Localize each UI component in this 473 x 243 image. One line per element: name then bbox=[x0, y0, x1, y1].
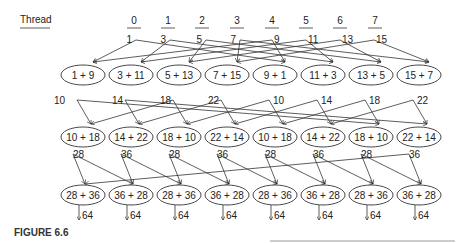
initial-value: 15 bbox=[376, 34, 388, 45]
step2-oval-label: 10 + 18 bbox=[66, 132, 100, 143]
step1-oval-label: 13 + 5 bbox=[357, 70, 386, 81]
thread-label: Thread bbox=[20, 14, 52, 25]
thread-id: 5 bbox=[303, 15, 309, 26]
step1-oval-label: 3 + 11 bbox=[117, 70, 145, 81]
step1-oval-label: 15 + 7 bbox=[405, 70, 434, 81]
initial-value: 9 bbox=[274, 34, 280, 45]
step1-oval-label: 1 + 9 bbox=[72, 70, 95, 81]
final-result: 64 bbox=[82, 210, 94, 221]
final-result: 64 bbox=[178, 210, 190, 221]
step2-oval-label: 22 + 14 bbox=[402, 132, 436, 143]
step3-oval-label: 28 + 36 bbox=[66, 190, 100, 201]
step1-oval-label: 5 + 13 bbox=[165, 70, 194, 81]
step2-result: 28 bbox=[73, 149, 85, 160]
step2-result: 36 bbox=[121, 149, 133, 160]
thread-id: 0 bbox=[131, 15, 137, 26]
step3-oval-label: 28 + 36 bbox=[258, 190, 292, 201]
initial-value: 13 bbox=[342, 34, 354, 45]
initial-value: 1 bbox=[126, 34, 132, 45]
figure-caption: FIGURE 6.6 bbox=[14, 227, 69, 238]
step3-oval-label: 28 + 36 bbox=[162, 190, 196, 201]
thread-id: 4 bbox=[269, 15, 275, 26]
thread-id: 7 bbox=[372, 15, 378, 26]
step2-result: 28 bbox=[361, 149, 373, 160]
step3-oval-label: 36 + 28 bbox=[402, 190, 436, 201]
step2-oval-label: 18 + 10 bbox=[354, 132, 388, 143]
final-result: 64 bbox=[322, 210, 334, 221]
step1-result: 18 bbox=[160, 95, 172, 106]
final-result: 64 bbox=[418, 210, 430, 221]
step1-result: 18 bbox=[369, 95, 381, 106]
step2-result: 28 bbox=[265, 149, 277, 160]
step2-oval-label: 18 + 10 bbox=[162, 132, 196, 143]
final-result: 64 bbox=[226, 210, 238, 221]
step1-oval-label: 9 + 1 bbox=[264, 70, 287, 81]
step2-oval-label: 10 + 18 bbox=[258, 132, 292, 143]
step3-oval-label: 36 + 28 bbox=[114, 190, 148, 201]
thread-id: 1 bbox=[165, 15, 171, 26]
butterfly-reduction-diagram: Thread01234567135791113151 + 93 + 115 + … bbox=[0, 0, 473, 243]
step2-result: 28 bbox=[169, 149, 181, 160]
initial-value: 3 bbox=[160, 34, 166, 45]
initial-value: 7 bbox=[230, 34, 236, 45]
step1-result: 10 bbox=[273, 95, 285, 106]
step1-oval-label: 7 + 15 bbox=[213, 70, 242, 81]
step1-result: 14 bbox=[321, 95, 333, 106]
step1-oval-label: 11 + 3 bbox=[309, 70, 337, 81]
step2-result: 36 bbox=[409, 149, 421, 160]
step1-result: 14 bbox=[112, 95, 124, 106]
initial-value: 11 bbox=[308, 34, 319, 45]
step3-oval-label: 36 + 28 bbox=[210, 190, 244, 201]
step1-result: 22 bbox=[208, 95, 220, 106]
final-result: 64 bbox=[274, 210, 286, 221]
step3-oval-label: 28 + 36 bbox=[354, 190, 388, 201]
step2-result: 36 bbox=[313, 149, 325, 160]
step2-oval-label: 14 + 22 bbox=[306, 132, 340, 143]
step1-result: 10 bbox=[54, 95, 66, 106]
step2-oval-label: 14 + 22 bbox=[114, 132, 148, 143]
final-result: 64 bbox=[130, 210, 142, 221]
step2-oval-label: 22 + 14 bbox=[210, 132, 244, 143]
thread-id: 3 bbox=[234, 15, 240, 26]
step2-result: 36 bbox=[217, 149, 229, 160]
step1-result: 22 bbox=[417, 95, 429, 106]
thread-id: 2 bbox=[199, 15, 205, 26]
step3-oval-label: 36 + 28 bbox=[306, 190, 340, 201]
thread-id: 6 bbox=[337, 15, 343, 26]
initial-value: 5 bbox=[196, 34, 202, 45]
final-result: 64 bbox=[370, 210, 382, 221]
